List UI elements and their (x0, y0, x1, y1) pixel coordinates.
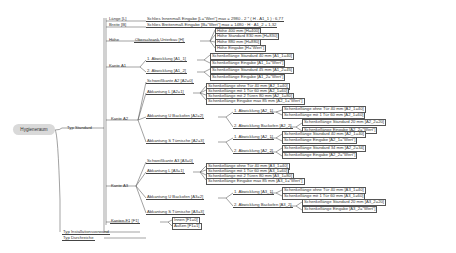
a1-option[interactable]: Schenkellänge Standard 40 mm [A1_1=40] (210, 53, 294, 60)
mind-map-canvas: Hygieneraum Typ Standard Typ Installatio… (0, 0, 456, 253)
node-laenge[interactable]: Länge [L] (108, 16, 127, 21)
a1-abwicklung-2[interactable]: 2. Abwicklung [A1_2] (146, 68, 187, 74)
a1-option[interactable]: Schenkellänge Eingabe [A1_1="Wert"] (210, 60, 285, 67)
node-label: Oberschrank Unterbau [H] (135, 37, 184, 42)
node-label: Höhe Standard 830 mm [H=830] (217, 33, 277, 38)
node-label: Schweißkante A3 [A3=0] (147, 158, 193, 163)
branch-typ-standard[interactable]: Typ Standard (66, 125, 93, 130)
a1-option[interactable]: Schenkellänge Standard 45 mm [A1_2=45] (210, 67, 294, 74)
a2-abkantung-l[interactable]: Abkantung L [A2=1] (146, 89, 185, 95)
node-label: Schenkellänge Standard 34 mm [A2_2=34] (284, 145, 364, 150)
hoehe-option[interactable]: Höhe Eingabe [H="Wert"] (215, 45, 266, 52)
f1-option[interactable]: Außen [F1=1] (172, 223, 202, 230)
node-label: 2. Abwicklung [A1_2] (147, 68, 186, 73)
node-label: Breite [B] (109, 22, 126, 27)
node-label: Schenkellänge mit 1 Tür 60 mm [A3_1=60] (284, 193, 363, 198)
branch-label: Typ Standard (67, 125, 92, 130)
a3-u-option[interactable]: Schenkellänge Eingabe [A3_2="Wert"] (302, 206, 377, 213)
node-label: Abkantung U Backofen [A3=2] (147, 194, 203, 199)
a2-u-abwicklung-2[interactable]: 2. Abwicklung Backofen [A2_2] (233, 123, 293, 129)
node-label: Außen [F1=1] (174, 223, 200, 228)
node-kante-a1[interactable]: Kante A1 (108, 63, 127, 68)
a2-u-option[interactable]: Schenkellänge Standard 20 mm [A2_2=20] (302, 119, 386, 126)
a2-schweisskante[interactable]: Schweißkante A2 [A2=0] (146, 78, 194, 84)
node-label: Schenkellänge Standard 20 mm [A3_2=20] (304, 199, 384, 204)
node-label: Schenkellänge Eingabe max 85 mm [A3_1="W… (208, 178, 303, 183)
a2-s-abwicklung-2[interactable]: 2. Abwicklung [A2_2] (233, 148, 274, 154)
branch-label: Typ Installationsvorwand (63, 229, 109, 234)
node-label: Schenkellänge Standard 45 mm [A1_2=45] (212, 67, 292, 72)
node-label: Abkantung L [A3=1] (147, 168, 184, 173)
a2-s-abwicklung-1[interactable]: 1. Abwicklung [A2_1] (233, 134, 274, 140)
a2-abkantung-s[interactable]: Abkantung S Türnische [A2=3] (146, 138, 205, 144)
node-kante-a3[interactable]: Kante A3 (110, 183, 129, 188)
node-label: Schenkellänge ohne Tür 40 mm [A2_1=40] (284, 106, 364, 111)
a2-s-option[interactable]: Schenkellänge Eingabe [A2_2="Wert"] (282, 152, 357, 159)
node-label: Kante A1 (109, 63, 126, 68)
node-kante-a2[interactable]: Kante A2 (110, 116, 129, 121)
a2-abkantung-u[interactable]: Abkantung U Backofen [A2=2] (146, 113, 204, 119)
branch-label: Typ Durchreiche (63, 235, 94, 240)
node-label: 2. Abwicklung Backofen [A3_2] (234, 202, 292, 207)
node-label: Schweißkante A2 [A2=0] (147, 78, 193, 83)
a2-l-option[interactable]: Schenkellänge Eingabe max 85 mm [A2_1="W… (206, 98, 305, 105)
node-hoehe-group[interactable]: Oberschrank Unterbau [H] (134, 37, 185, 43)
a3-abkantung-s[interactable]: Abkantung S Türnische [A3=3] (146, 209, 205, 215)
node-hoehe[interactable]: Höhe (108, 37, 120, 42)
node-label: Schenkellänge Eingabe [A2_1="Wert"] (284, 137, 355, 142)
a2-s-option[interactable]: Schenkellänge Eingabe [A2_1="Wert"] (282, 137, 357, 144)
node-label: Schenkellänge Standard 40 mm [A1_1=40] (212, 53, 292, 58)
node-kanten-f1[interactable]: Kanten F1 [F1] (110, 218, 140, 224)
a2-s-option[interactable]: Schenkellänge Standard 34 mm [A2_2=34] (282, 145, 366, 152)
node-label: 1. Abwicklung [A3_1] (234, 189, 273, 194)
a3-l-option[interactable]: Schenkellänge Eingabe max 85 mm [A3_1="W… (206, 178, 305, 185)
node-breite[interactable]: Breite [B] (108, 22, 127, 27)
node-label: 2. Abwicklung Backofen [A2_2] (234, 123, 292, 128)
node-label: Schenkellänge Eingabe max 85 mm [A2_1="W… (208, 98, 303, 103)
branch-typ-durchreiche[interactable]: Typ Durchreiche (62, 235, 95, 241)
a1-abwicklung-1[interactable]: 1. Abwicklung [A1_1] (146, 56, 187, 62)
a3-u-abwicklung-2[interactable]: 2. Abwicklung Backofen [A3_2] (233, 202, 293, 208)
node-label: Höhe (109, 37, 119, 42)
node-label: Kanten F1 [F1] (111, 218, 139, 223)
a3-abkantung-l[interactable]: Abkantung L [A3=1] (146, 168, 185, 174)
node-label: Schenkellänge mit 1 Tür 60 mm [A2_1=60] (284, 112, 363, 117)
a3-u-option[interactable]: Schenkellänge Standard 20 mm [A3_2=20] (302, 199, 386, 206)
a3-schweisskante[interactable]: Schweißkante A3 [A3=0] (146, 158, 194, 164)
a3-u-abwicklung-1[interactable]: 1. Abwicklung [A3_1] (233, 189, 274, 195)
node-label: Schenkellänge Eingabe [A3_2="Wert"] (304, 206, 375, 211)
a1-option[interactable]: Schenkellänge Eingabe [A1_2="Wert"] (210, 74, 285, 81)
node-label: Schlies Innenmaß Eingabe [L="Wert"] max … (147, 16, 283, 21)
node-label: Kante A3 (111, 183, 128, 188)
node-label: 2. Abwicklung [A2_2] (234, 148, 273, 153)
node-label: Schenkellänge Standard 20 mm [A2_2=20] (304, 119, 384, 124)
a2-u-abwicklung-1[interactable]: 1. Abwicklung [A2_1] (233, 108, 274, 114)
root-label: Hygieneraum (20, 127, 47, 132)
node-label: Schenkellänge Eingabe [A1_2="Wert"] (212, 74, 283, 79)
node-label: Abkantung S Türnische [A3=3] (147, 209, 204, 214)
node-label: Kante A2 (111, 116, 128, 121)
node-label: Abkantung U Backofen [A2=2] (147, 113, 203, 118)
node-label: Abkantung L [A2=1] (147, 89, 184, 94)
node-label: Schenkellänge Eingabe [A2_2="Wert"] (284, 152, 355, 157)
node-label: Schenkellänge ohne Tür 40 mm [A3_1=40] (284, 187, 364, 192)
a3-abkantung-u[interactable]: Abkantung U Backofen [A3=2] (146, 194, 204, 200)
node-label: Höhe 880 mm [H=880] (217, 39, 259, 44)
node-label: 1. Abwicklung [A2_1] (234, 134, 273, 139)
root-node-hygieneraum[interactable]: Hygieneraum (13, 124, 55, 135)
node-label: 1. Abwicklung [A1_1] (147, 56, 186, 61)
node-label: 1. Abwicklung [A2_1] (234, 108, 273, 113)
node-label: Innen [F1=0] (174, 217, 198, 222)
node-label: Abkantung S Türnische [A2=3] (147, 138, 204, 143)
a2-u-option[interactable]: Schenkellänge mit 1 Tür 60 mm [A2_1=60] (282, 112, 365, 119)
node-label: Höhe Eingabe [H="Wert"] (217, 45, 264, 50)
node-label: Schlies Breitenmaß Eingabe [B="Wert"] ma… (147, 22, 276, 27)
node-label: Länge [L] (109, 16, 126, 21)
node-label: Schenkellänge Eingabe [A1_1="Wert"] (212, 60, 283, 65)
node-label: Schenkellänge Standard 40 mm [A2_1=40] (284, 131, 364, 136)
